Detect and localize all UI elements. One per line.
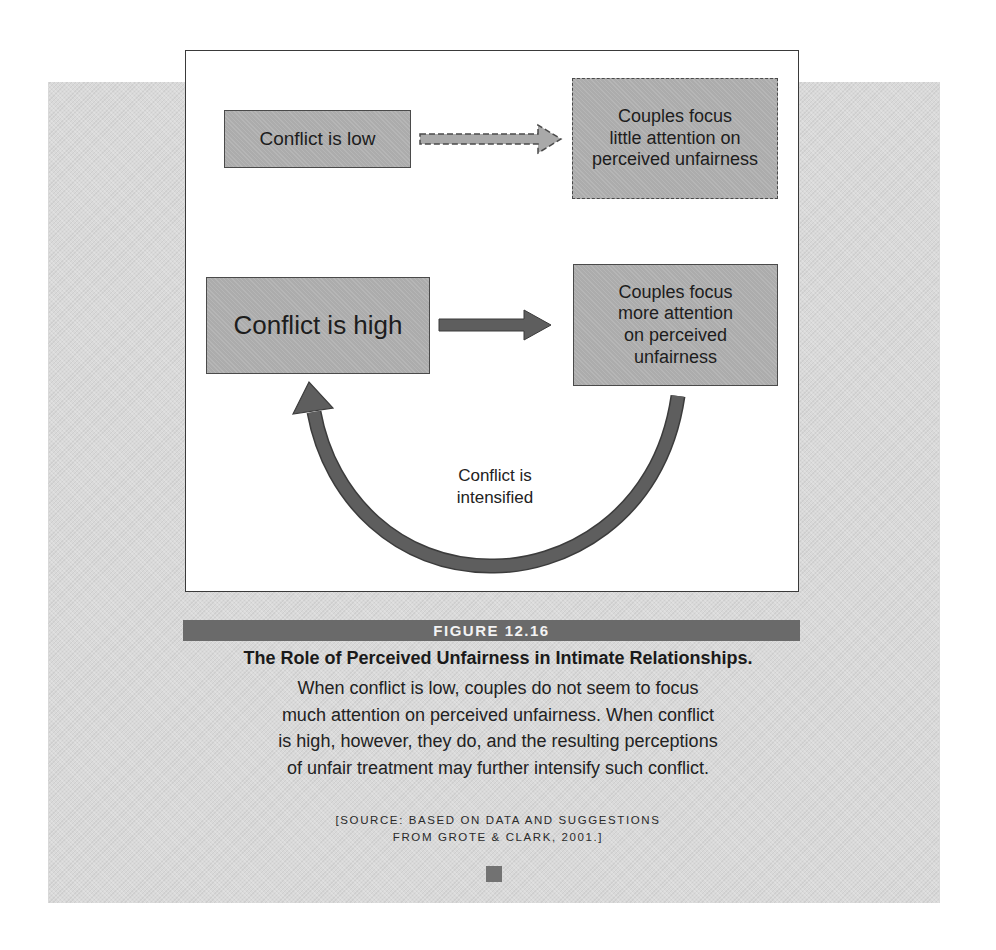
edge-label-intensified: Conflict is intensified <box>430 465 560 509</box>
figure-source: [SOURCE: BASED ON DATA AND SUGGESTIONS F… <box>150 812 846 846</box>
node-line: on perceived <box>618 325 733 347</box>
node-line: little attention on <box>592 128 758 150</box>
node-little-attention: Couples focus little attention on percei… <box>572 78 778 199</box>
node-line: unfairness <box>618 347 733 369</box>
source-line: FROM GROTE & CLARK, 2001.] <box>150 829 846 846</box>
node-label: Conflict is low <box>259 128 375 151</box>
edge-label-line: Conflict is <box>430 465 560 487</box>
source-line: [SOURCE: BASED ON DATA AND SUGGESTIONS <box>150 812 846 829</box>
node-line: perceived unfairness <box>592 149 758 171</box>
end-square-icon <box>486 866 502 882</box>
node-more-attention: Couples focus more attention on perceive… <box>573 264 778 386</box>
figure-number-bar: FIGURE 12.16 <box>183 620 800 641</box>
node-label: Conflict is high <box>233 310 402 341</box>
node-line: Couples focus <box>618 282 733 304</box>
figure-caption: When conflict is low, couples do not see… <box>150 675 846 781</box>
node-conflict-high: Conflict is high <box>206 277 430 374</box>
node-conflict-low: Conflict is low <box>224 110 411 168</box>
node-line: more attention <box>618 303 733 325</box>
node-line: Couples focus <box>592 106 758 128</box>
caption-line: is high, however, they do, and the resul… <box>150 728 846 755</box>
caption-line: When conflict is low, couples do not see… <box>150 675 846 702</box>
figure-title: The Role of Perceived Unfairness in Inti… <box>100 648 896 669</box>
edge-label-line: intensified <box>430 487 560 509</box>
caption-line: of unfair treatment may further intensif… <box>150 755 846 782</box>
caption-line: much attention on perceived unfairness. … <box>150 702 846 729</box>
